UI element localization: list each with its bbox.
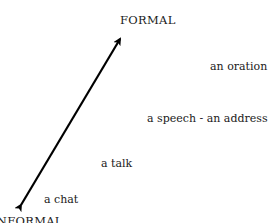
double-arrow-line <box>21 39 120 205</box>
informal-label: INFORMAL <box>0 214 63 223</box>
item-speech-address: a speech - an address <box>147 113 268 125</box>
formal-label: FORMAL <box>120 13 176 27</box>
item-oration: an oration <box>210 61 267 73</box>
item-talk: a talk <box>101 158 132 170</box>
item-chat: a chat <box>44 194 78 206</box>
